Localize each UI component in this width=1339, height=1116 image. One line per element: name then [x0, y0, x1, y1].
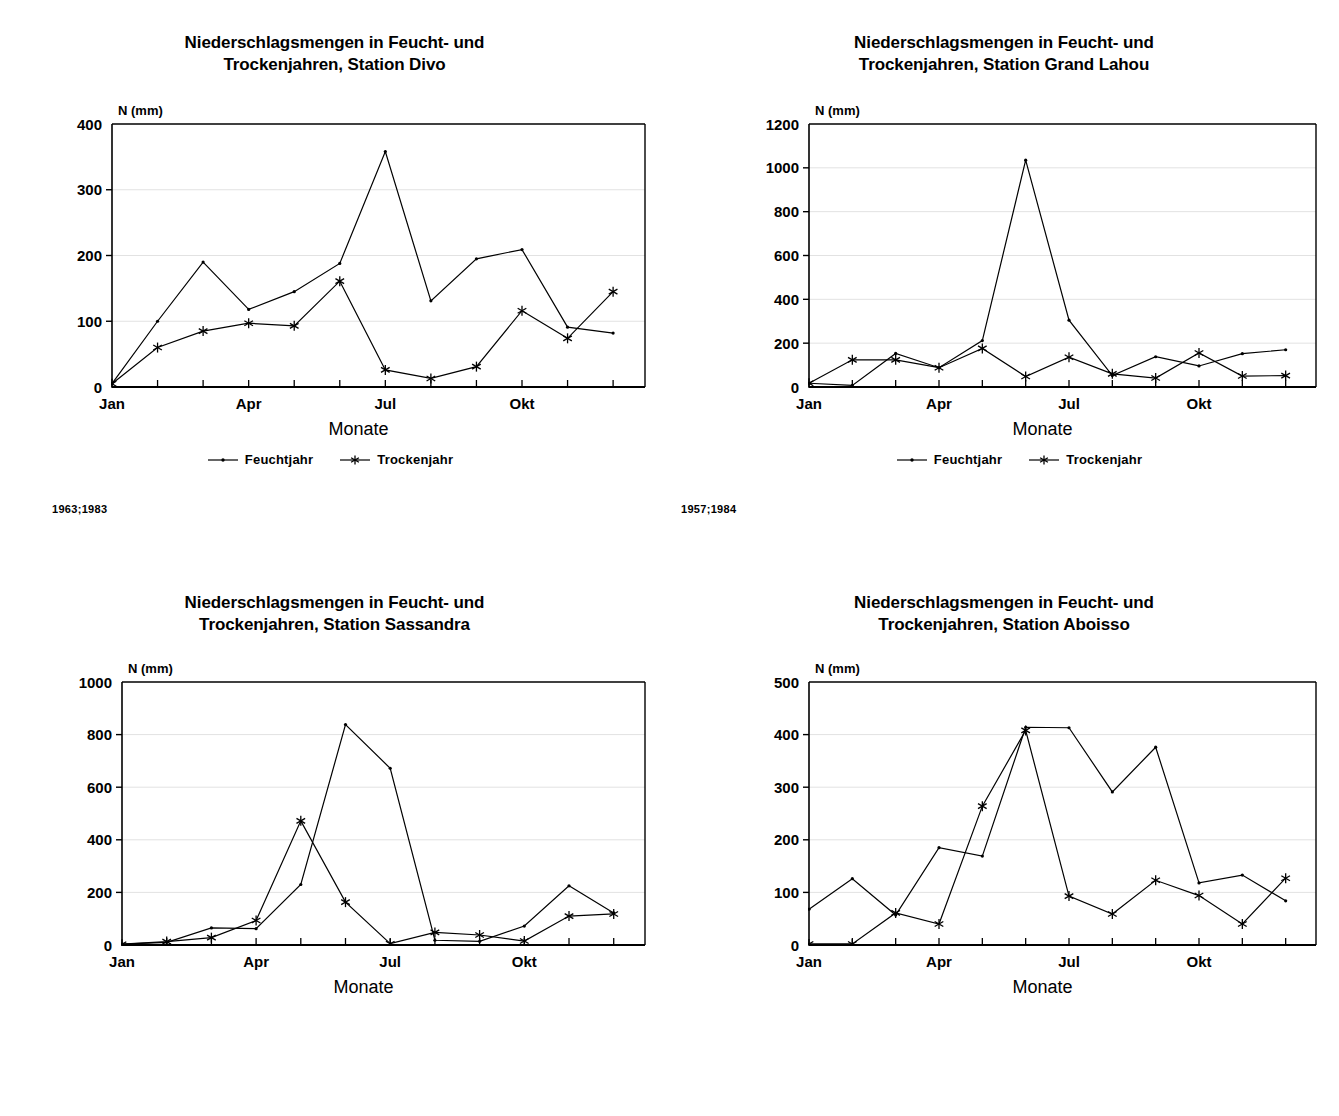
plot-area-aboisso: 0100200300400500N (mm)JanAprJulOktMonate: [669, 660, 1339, 1116]
plot-area-divo: 0100200300400N (mm)JanAprJulOktMonate: [0, 100, 669, 558]
chart-panel-aboisso: Niederschlagsmengen in Feucht- und Trock…: [669, 558, 1339, 1116]
y-tick-label: 1000: [766, 159, 799, 176]
y-tick-label: 300: [774, 779, 799, 796]
chart-title-divo: Niederschlagsmengen in Feucht- und Trock…: [0, 32, 669, 76]
x-tick-label: Jul: [379, 953, 401, 970]
x-tick-label: Jan: [796, 395, 822, 412]
legend-item-trockenjahr: Trockenjahr: [339, 452, 453, 467]
series-markers-trockenjahr: [805, 343, 1290, 388]
y-tick-label: 400: [77, 116, 102, 133]
y-axis-unit-label: N (mm): [128, 661, 173, 676]
x-tick-label: Jan: [796, 953, 822, 970]
y-tick-label: 600: [774, 247, 799, 264]
y-tick-label: 200: [87, 884, 112, 901]
x-tick-label: Apr: [926, 395, 952, 412]
y-tick-label: 400: [774, 291, 799, 308]
chart-legend-grand-lahou: Feuchtjahr Trockenjahr: [809, 452, 1229, 467]
legend-marker-dot-icon: [207, 454, 239, 466]
series-group: [805, 159, 1290, 389]
y-axis-unit-label: N (mm): [118, 103, 163, 118]
y-axis-unit-label: N (mm): [815, 661, 860, 676]
chart-panel-sassandra: Niederschlagsmengen in Feucht- und Trock…: [0, 558, 669, 1116]
legend-marker-dot-icon: [896, 454, 928, 466]
y-tick-label: 1200: [766, 116, 799, 133]
plot-area-sassandra: 02004006008001000N (mm)JanAprJulOktMonat…: [0, 660, 669, 1116]
chart-title-sassandra: Niederschlagsmengen in Feucht- und Trock…: [0, 592, 669, 636]
x-tick-label: Okt: [512, 953, 537, 970]
legend-label-trockenjahr: Trockenjahr: [1066, 452, 1142, 467]
series-markers-trockenjahr: [805, 725, 1290, 949]
series-line-feuchtjahr: [809, 727, 1286, 915]
x-tick-label: Jul: [1058, 953, 1080, 970]
series-markers-trockenjahr: [118, 816, 618, 949]
y-tick-label: 200: [774, 335, 799, 352]
series-group: [108, 150, 618, 389]
series-line-feuchtjahr: [112, 152, 613, 384]
charts-grid: Niederschlagsmengen in Feucht- und Trock…: [0, 0, 1339, 1116]
x-tick-label: Okt: [1186, 395, 1211, 412]
chart-title-aboisso: Niederschlagsmengen in Feucht- und Trock…: [669, 592, 1339, 636]
chart-title-grand-lahou: Niederschlagsmengen in Feucht- und Trock…: [669, 32, 1339, 76]
series-group: [805, 725, 1290, 949]
x-axis-title: Monate: [1012, 977, 1072, 997]
y-tick-label: 400: [774, 726, 799, 743]
y-tick-label: 500: [774, 674, 799, 691]
chart-plot-aboisso: 0100200300400500N (mm)JanAprJulOktMonate: [669, 660, 1339, 1116]
y-tick-label: 800: [87, 726, 112, 743]
y-tick-label: 100: [77, 313, 102, 330]
chart-legend-divo: Feuchtjahr Trockenjahr: [120, 452, 540, 467]
legend-marker-star-icon: [339, 454, 371, 466]
chart-years-note-grand-lahou: 1957;1984: [681, 503, 736, 515]
x-tick-label: Apr: [243, 953, 269, 970]
series-markers-trockenjahr: [108, 276, 618, 389]
legend-marker-star-icon: [1028, 454, 1060, 466]
legend-item-feuchtjahr: Feuchtjahr: [896, 452, 1002, 467]
x-tick-label: Jul: [1058, 395, 1080, 412]
y-tick-label: 600: [87, 779, 112, 796]
y-tick-label: 300: [77, 181, 102, 198]
chart-panel-divo: Niederschlagsmengen in Feucht- und Trock…: [0, 0, 669, 558]
y-tick-label: 0: [791, 937, 799, 954]
plot-area-grand-lahou: 020040060080010001200N (mm)JanAprJulOktM…: [669, 100, 1339, 558]
y-tick-label: 0: [94, 379, 102, 396]
chart-panel-grand-lahou: Niederschlagsmengen in Feucht- und Trock…: [669, 0, 1339, 558]
x-axis-title: Monate: [328, 419, 388, 439]
series-markers-feuchtjahr: [120, 723, 615, 946]
legend-item-feuchtjahr: Feuchtjahr: [207, 452, 313, 467]
x-tick-label: Jan: [109, 953, 135, 970]
legend-label-feuchtjahr: Feuchtjahr: [934, 452, 1002, 467]
legend-label-trockenjahr: Trockenjahr: [377, 452, 453, 467]
y-tick-label: 200: [77, 247, 102, 264]
y-tick-label: 0: [791, 379, 799, 396]
series-markers-feuchtjahr: [807, 726, 1287, 917]
y-tick-label: 800: [774, 203, 799, 220]
series-line-trockenjahr: [809, 730, 1286, 944]
x-tick-label: Jul: [374, 395, 396, 412]
series-markers-feuchtjahr: [110, 150, 614, 385]
x-tick-label: Apr: [236, 395, 262, 412]
y-tick-label: 1000: [79, 674, 112, 691]
x-tick-label: Jan: [99, 395, 125, 412]
chart-plot-divo: 0100200300400N (mm)JanAprJulOktMonate: [0, 100, 669, 562]
chart-plot-sassandra: 02004006008001000N (mm)JanAprJulOktMonat…: [0, 660, 669, 1116]
chart-years-note-divo: 1963;1983: [52, 503, 107, 515]
series-line-trockenjahr: [809, 348, 1286, 383]
series-line-trockenjahr: [112, 281, 613, 384]
y-tick-label: 0: [104, 937, 112, 954]
x-tick-label: Okt: [509, 395, 534, 412]
x-tick-label: Apr: [926, 953, 952, 970]
chart-plot-grand-lahou: 020040060080010001200N (mm)JanAprJulOktM…: [669, 100, 1339, 562]
y-tick-label: 200: [774, 831, 799, 848]
x-tick-label: Okt: [1186, 953, 1211, 970]
series-line-feuchtjahr: [809, 160, 1286, 385]
y-tick-label: 400: [87, 831, 112, 848]
series-markers-feuchtjahr: [807, 159, 1287, 388]
series-line-feuchtjahr: [122, 725, 614, 945]
x-axis-title: Monate: [1012, 419, 1072, 439]
legend-label-feuchtjahr: Feuchtjahr: [245, 452, 313, 467]
x-axis-title: Monate: [333, 977, 393, 997]
y-tick-label: 100: [774, 884, 799, 901]
series-group: [118, 723, 618, 949]
legend-item-trockenjahr: Trockenjahr: [1028, 452, 1142, 467]
y-axis-unit-label: N (mm): [815, 103, 860, 118]
